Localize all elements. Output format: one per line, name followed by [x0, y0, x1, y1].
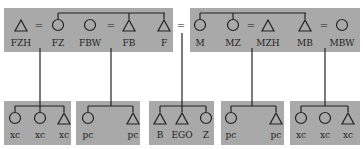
label-fbw: FBW	[70, 38, 110, 48]
svg-text:=: =	[247, 20, 255, 31]
svg-text:=: =	[320, 20, 328, 31]
label-fzh: FZH	[1, 38, 41, 48]
label-mz: MZ	[213, 38, 253, 48]
triangle-male-icon	[15, 20, 27, 31]
triangle-male-icon	[262, 20, 274, 31]
label-mbw: MBW	[322, 38, 362, 48]
circle-female-icon	[85, 20, 96, 31]
label-pc: pc	[211, 130, 251, 140]
label-mzh: MZH	[248, 38, 288, 48]
svg-text:=: =	[177, 20, 185, 31]
kinship-lines: = = = = =	[0, 0, 363, 149]
circle-female-icon	[228, 20, 239, 31]
circle-female-icon	[337, 20, 348, 31]
svg-text:=: =	[107, 20, 115, 31]
triangle-male-icon	[299, 20, 311, 31]
label-xc: xc	[328, 130, 363, 140]
triangle-male-icon	[158, 20, 170, 31]
label-f: F	[144, 38, 184, 48]
label-mb: MB	[285, 38, 325, 48]
triangle-male-icon	[123, 20, 135, 31]
circle-female-icon	[195, 20, 206, 31]
svg-text:=: =	[35, 20, 43, 31]
circle-female-icon	[53, 20, 64, 31]
label-fb: FB	[109, 38, 149, 48]
label-pc: pc	[68, 130, 108, 140]
